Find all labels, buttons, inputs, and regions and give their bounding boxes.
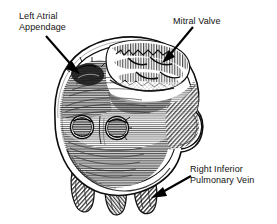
anatomical-figure bbox=[0, 0, 277, 224]
label-left-atrial-appendage: Left Atrial Appendage bbox=[19, 11, 66, 33]
label-mitral-valve: Mitral Valve bbox=[173, 16, 221, 27]
ostium-left bbox=[71, 116, 94, 139]
label-right-inferior-pulmonary-vein: Right Inferior Pulmonary Vein bbox=[190, 164, 254, 186]
